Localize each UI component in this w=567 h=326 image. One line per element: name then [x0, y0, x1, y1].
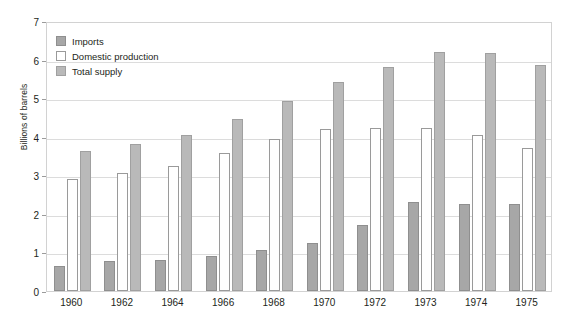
legend-item-domestic-production: Domestic production: [56, 49, 159, 63]
bar-imports-1960: [54, 266, 65, 291]
bar-total-supply-1960: [80, 151, 91, 291]
bar-imports-1970: [307, 243, 318, 291]
bar-group: [351, 23, 402, 291]
bar-total-supply-1974: [485, 53, 496, 291]
bar-imports-1973: [408, 202, 419, 291]
bar-domestic-production-1960: [67, 179, 78, 291]
bar-total-supply-1975: [535, 65, 546, 291]
x-tick-label: 1966: [212, 297, 234, 308]
bar-total-supply-1964: [181, 135, 192, 291]
bar-domestic-production-1972: [370, 128, 381, 291]
y-axis-title: Billions of barrels: [19, 57, 29, 177]
bar-domestic-production-1973: [421, 128, 432, 291]
legend-item-imports: Imports: [56, 34, 159, 48]
x-tick-label: 1968: [263, 297, 285, 308]
chart-legend: Imports Domestic production Total supply: [56, 34, 159, 79]
bar-total-supply-1966: [232, 119, 243, 291]
bar-group: [401, 23, 452, 291]
bar-domestic-production-1974: [472, 135, 483, 291]
bar-domestic-production-1970: [320, 129, 331, 291]
bar-imports-1975: [509, 204, 520, 291]
bar-imports-1968: [256, 250, 267, 291]
x-tick-label: 1964: [161, 297, 183, 308]
y-tick-label: 4: [13, 132, 39, 143]
bar-imports-1966: [206, 256, 217, 291]
bar-group: [452, 23, 503, 291]
legend-label-total-supply: Total supply: [72, 66, 122, 77]
bar-imports-1974: [459, 204, 470, 291]
legend-swatch-domestic-production: [56, 51, 66, 61]
x-tick-label: 1970: [313, 297, 335, 308]
bar-total-supply-1962: [130, 144, 141, 291]
bar-total-supply-1972: [383, 67, 394, 291]
x-tick-label: 1974: [465, 297, 487, 308]
x-tick-label: 1975: [516, 297, 538, 308]
x-tick-label: 1973: [414, 297, 436, 308]
bar-imports-1964: [155, 260, 166, 291]
legend-label-imports: Imports: [72, 36, 104, 47]
bar-total-supply-1970: [333, 82, 344, 291]
y-tick-label: 7: [13, 17, 39, 28]
y-tick-mark: [42, 292, 46, 293]
x-tick-label: 1960: [60, 297, 82, 308]
y-tick-label: 6: [13, 55, 39, 66]
bar-domestic-production-1975: [522, 148, 533, 291]
y-tick-label: 2: [13, 209, 39, 220]
legend-swatch-total-supply: [56, 66, 66, 76]
bar-group: [249, 23, 300, 291]
bar-group: [300, 23, 351, 291]
bar-imports-1962: [104, 261, 115, 291]
bar-domestic-production-1964: [168, 166, 179, 291]
bar-domestic-production-1962: [117, 173, 128, 291]
bar-group: [199, 23, 250, 291]
bar-domestic-production-1966: [219, 153, 230, 291]
bar-group: [502, 23, 553, 291]
legend-label-domestic-production: Domestic production: [72, 51, 159, 62]
y-tick-label: 5: [13, 94, 39, 105]
x-tick-label: 1972: [364, 297, 386, 308]
y-tick-label: 3: [13, 171, 39, 182]
bar-domestic-production-1968: [269, 139, 280, 291]
legend-swatch-imports: [56, 36, 66, 46]
bar-chart: Billions of barrels 01234567 19601962196…: [0, 0, 567, 326]
y-tick-label: 0: [13, 287, 39, 298]
bar-total-supply-1968: [282, 101, 293, 291]
bar-total-supply-1973: [434, 52, 445, 291]
bar-imports-1972: [357, 225, 368, 291]
x-tick-label: 1962: [111, 297, 133, 308]
y-tick-label: 1: [13, 248, 39, 259]
legend-item-total-supply: Total supply: [56, 64, 159, 78]
